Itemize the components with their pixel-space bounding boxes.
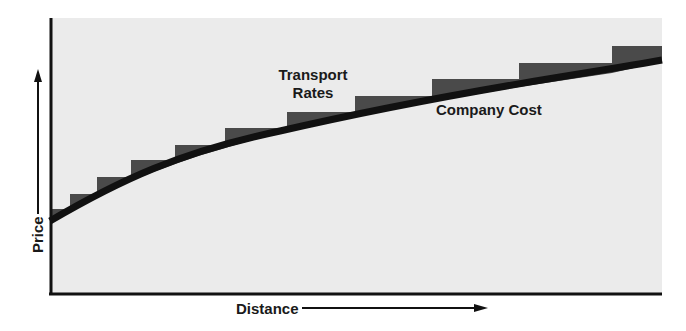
transport-rates-label-line2: Rates <box>293 84 334 101</box>
plot-area <box>50 18 662 294</box>
distance-axis-label: Distance <box>236 300 299 317</box>
price-arrow-head-icon <box>34 69 42 82</box>
price-axis-label: Price <box>29 216 46 253</box>
distance-arrow-head-icon <box>474 304 488 312</box>
transport-rates-label-line1: Transport <box>278 66 347 83</box>
company-cost-label: Company Cost <box>436 101 542 118</box>
transport-cost-chart: Transport Rates Company Cost Price Dista… <box>0 0 686 331</box>
